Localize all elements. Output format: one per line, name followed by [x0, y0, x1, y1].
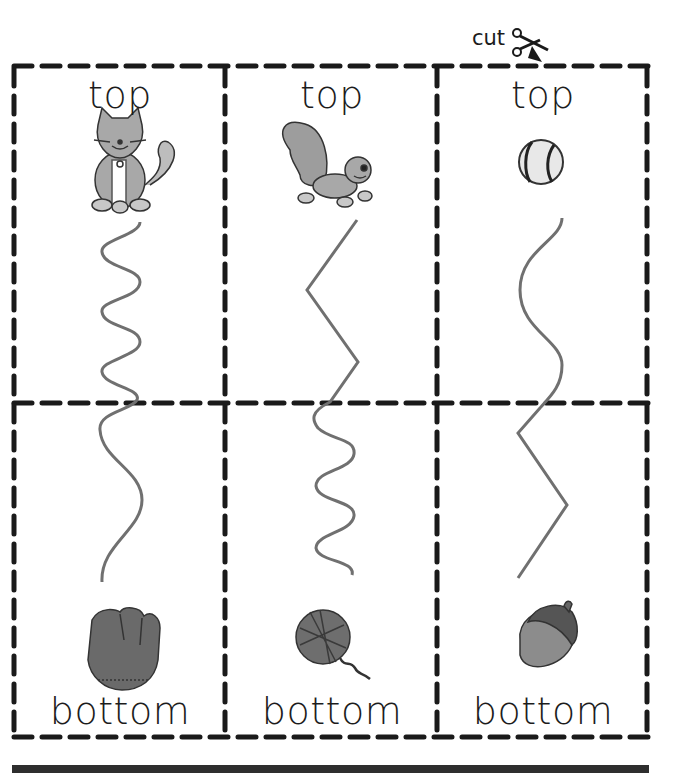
trace-path-2 [307, 220, 358, 575]
trace-path-3 [518, 218, 567, 578]
top-label-3: top [440, 72, 646, 118]
bottom-label-3: bottom [440, 688, 646, 734]
top-label-2: top [228, 72, 436, 118]
worksheet: cut top top top bottom bottom bottom [0, 0, 682, 781]
bottom-rule [12, 765, 649, 773]
bottom-label-2: bottom [228, 688, 436, 734]
baseball-glove-icon [88, 608, 160, 690]
scissors-icon [513, 29, 548, 62]
top-label-1: top [16, 72, 224, 118]
cat-icon [92, 108, 174, 213]
bottom-label-1: bottom [16, 688, 224, 734]
acorn-icon [520, 601, 577, 667]
yarn-ball-icon [296, 610, 370, 679]
cut-label: cut [472, 26, 505, 50]
squirrel-icon [283, 122, 372, 207]
baseball-icon [519, 140, 563, 184]
